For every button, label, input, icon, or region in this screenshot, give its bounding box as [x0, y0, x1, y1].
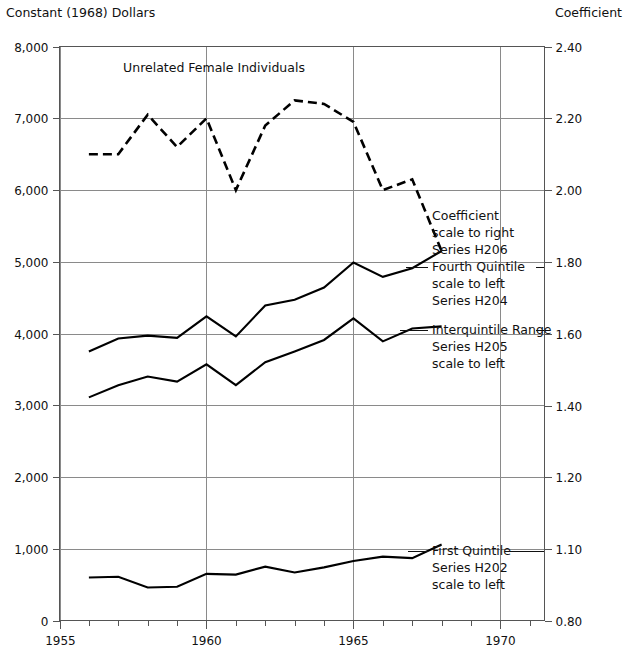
- chart-title: Unrelated Female Individuals: [123, 60, 305, 75]
- annotation-line: scale to left: [432, 276, 505, 291]
- annotation-line: Series H205: [432, 339, 508, 354]
- y-tick-label-right: 1.60: [556, 328, 583, 342]
- annotation-leaders: [400, 268, 544, 552]
- y-tick-label-left: 3,000: [14, 399, 48, 413]
- y-tick-label-left: 6,000: [14, 184, 48, 198]
- y-tick-label-left: 5,000: [14, 256, 48, 270]
- y-tick-label-left: 2,000: [14, 471, 48, 485]
- y-tick-label-right: 1.10: [556, 543, 583, 557]
- series-annotations: Coefficientscale to rightSeries H206Four…: [432, 208, 552, 592]
- x-tick-label: 1965: [338, 634, 369, 648]
- chart-figure: Constant (1968) Dollars Coefficient 1955…: [0, 0, 626, 660]
- annotation-h202: First QuintileSeries H202scale to left: [432, 543, 511, 592]
- y-tick-label-right: 0.80: [556, 615, 583, 629]
- y-tick-label-left: 0: [41, 615, 49, 629]
- plot-area: 195519601965197001,0002,0003,0004,0005,0…: [0, 0, 626, 660]
- y-tick-label-right: 2.40: [556, 41, 583, 55]
- x-tick-label: 1960: [191, 634, 222, 648]
- y-tick-label-left: 1,000: [14, 543, 48, 557]
- annotation-line: Interquintile Range: [432, 322, 552, 337]
- y-tick-label-left: 4,000: [14, 328, 48, 342]
- x-axis-ticks: [61, 621, 531, 629]
- x-tick-label: 1970: [485, 634, 516, 648]
- annotation-line: First Quintile: [432, 543, 511, 558]
- y-tick-label-right: 2.00: [556, 184, 583, 198]
- annotation-line: Fourth Quintile: [432, 259, 525, 274]
- annotation-line: Coefficient: [432, 208, 499, 223]
- y-tick-label-right: 1.40: [556, 400, 583, 414]
- y-tick-label-right: 1.80: [556, 256, 583, 270]
- y-tick-label-left: 7,000: [14, 112, 48, 126]
- annotation-h206: Coefficientscale to rightSeries H206: [432, 208, 514, 257]
- x-tick-label: 1955: [45, 634, 76, 648]
- annotation-line: Series H202: [432, 560, 508, 575]
- data-series: [89, 100, 442, 587]
- annotation-h205: Interquintile RangeSeries H205scale to l…: [432, 322, 552, 371]
- y-tick-label-right: 1.20: [556, 471, 583, 485]
- series-line-h206: [89, 100, 442, 251]
- annotation-line: Series H204: [432, 293, 508, 308]
- annotation-line: scale to left: [432, 577, 505, 592]
- annotation-line: Series H206: [432, 242, 508, 257]
- series-line-h204: [89, 251, 442, 351]
- annotation-h204: Fourth Quintilescale to leftSeries H204: [432, 259, 525, 308]
- annotation-line: scale to left: [432, 356, 505, 371]
- annotation-line: scale to right: [432, 225, 514, 240]
- y-tick-label-left: 8,000: [14, 41, 48, 55]
- series-line-h202: [89, 544, 442, 587]
- series-line-h205: [89, 318, 442, 397]
- y-tick-label-right: 2.20: [556, 112, 583, 126]
